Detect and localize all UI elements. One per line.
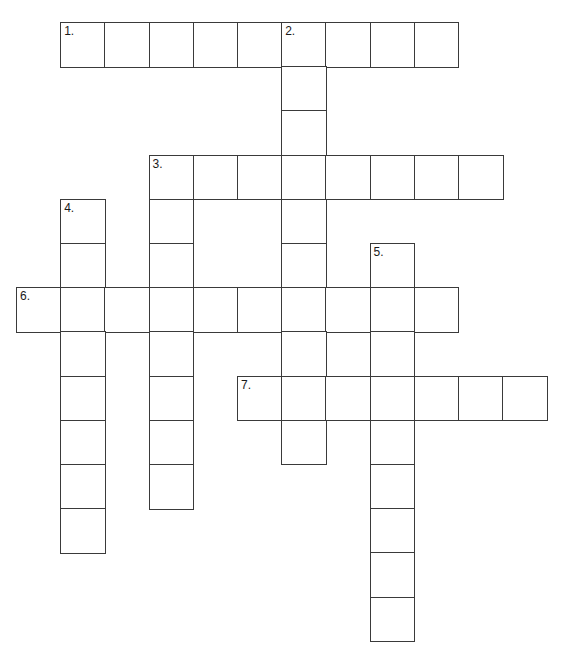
crossword-cell[interactable] [60, 287, 106, 333]
crossword-cell[interactable]: 1. [60, 22, 106, 68]
crossword-cell[interactable] [502, 376, 548, 422]
crossword-cell[interactable] [60, 376, 106, 422]
crossword-cell[interactable] [193, 155, 239, 201]
clue-number: 3. [153, 157, 163, 171]
crossword-cell[interactable] [414, 22, 460, 68]
crossword-cell[interactable] [60, 420, 106, 466]
crossword-cell[interactable] [149, 199, 195, 245]
crossword-cell[interactable] [149, 331, 195, 377]
clue-number: 5. [374, 245, 384, 259]
crossword-cell[interactable] [370, 155, 416, 201]
crossword-cell[interactable] [325, 287, 371, 333]
crossword-cell[interactable] [370, 287, 416, 333]
crossword-cell[interactable] [149, 420, 195, 466]
crossword-cell[interactable] [193, 287, 239, 333]
crossword-cell[interactable]: 2. [281, 22, 327, 68]
crossword-cell[interactable] [104, 287, 150, 333]
crossword-grid: 1.2.3.4.5.6.7. [0, 0, 562, 669]
crossword-cell[interactable] [281, 331, 327, 377]
crossword-cell[interactable] [325, 155, 371, 201]
crossword-cell[interactable]: 3. [149, 155, 195, 201]
crossword-cell[interactable] [325, 22, 371, 68]
clue-number: 1. [64, 24, 74, 38]
crossword-cell[interactable] [281, 110, 327, 156]
clue-number: 2. [285, 24, 295, 38]
crossword-cell[interactable] [149, 287, 195, 333]
crossword-cell[interactable] [281, 66, 327, 112]
crossword-cell[interactable] [237, 155, 283, 201]
crossword-cell[interactable] [281, 243, 327, 289]
crossword-cell[interactable]: 5. [370, 243, 416, 289]
crossword-cell[interactable] [370, 331, 416, 377]
crossword-cell[interactable] [60, 464, 106, 510]
crossword-cell[interactable] [149, 376, 195, 422]
crossword-cell[interactable] [281, 287, 327, 333]
crossword-cell[interactable] [458, 155, 504, 201]
crossword-cell[interactable] [281, 376, 327, 422]
crossword-cell[interactable] [237, 287, 283, 333]
crossword-cell[interactable] [370, 464, 416, 510]
crossword-cell[interactable] [370, 22, 416, 68]
crossword-cell[interactable] [149, 464, 195, 510]
crossword-cell[interactable] [325, 376, 371, 422]
clue-number: 4. [64, 201, 74, 215]
crossword-cell[interactable] [370, 376, 416, 422]
crossword-cell[interactable] [193, 22, 239, 68]
crossword-cell[interactable] [237, 22, 283, 68]
crossword-cell[interactable] [370, 597, 416, 643]
clue-number: 6. [20, 289, 30, 303]
crossword-cell[interactable] [60, 331, 106, 377]
crossword-cell[interactable] [60, 243, 106, 289]
crossword-cell[interactable]: 7. [237, 376, 283, 422]
crossword-cell[interactable] [149, 243, 195, 289]
crossword-cell[interactable] [281, 420, 327, 466]
crossword-cell[interactable] [281, 199, 327, 245]
crossword-cell[interactable] [414, 376, 460, 422]
crossword-cell[interactable] [60, 508, 106, 554]
crossword-cell[interactable] [149, 22, 195, 68]
crossword-cell[interactable]: 4. [60, 199, 106, 245]
crossword-cell[interactable] [370, 508, 416, 554]
crossword-cell[interactable] [414, 155, 460, 201]
crossword-cell[interactable] [370, 420, 416, 466]
crossword-cell[interactable]: 6. [16, 287, 62, 333]
clue-number: 7. [241, 378, 251, 392]
crossword-cell[interactable] [414, 287, 460, 333]
crossword-cell[interactable] [458, 376, 504, 422]
crossword-cell[interactable] [104, 22, 150, 68]
crossword-cell[interactable] [281, 155, 327, 201]
crossword-cell[interactable] [370, 552, 416, 598]
